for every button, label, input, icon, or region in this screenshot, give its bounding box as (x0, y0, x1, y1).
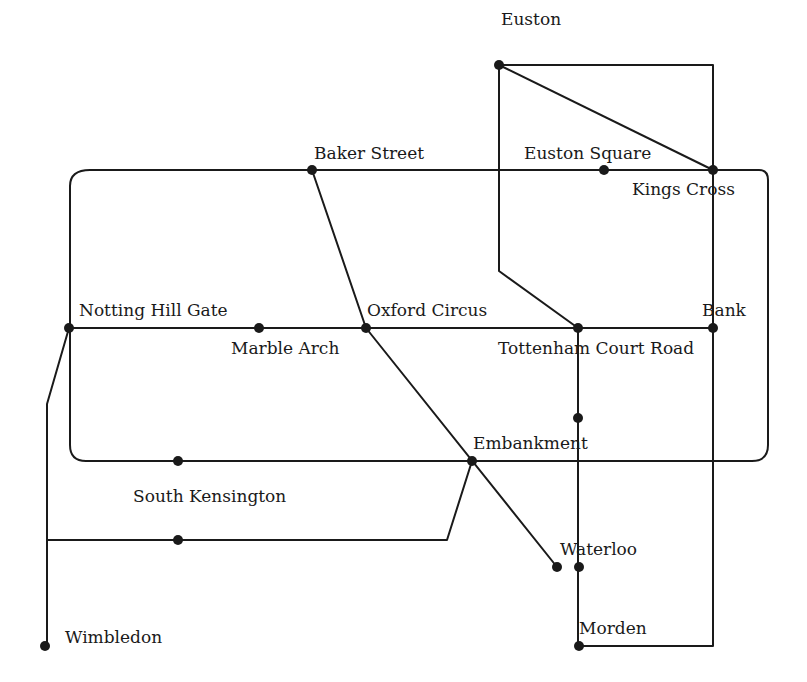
station-label-waterloo: Waterloo (560, 539, 637, 559)
station-dot-marble-arch (254, 323, 264, 333)
station-label-euston-square: Euston Square (524, 143, 651, 163)
station-label-wimbledon: Wimbledon (65, 627, 162, 647)
station-label-south-kensington: South Kensington (133, 486, 286, 506)
station-label-marble-arch: Marble Arch (231, 338, 339, 358)
station-dot-unnamed-2 (173, 456, 183, 466)
station-dot-euston (494, 60, 504, 70)
station-dot-tottenham-court-road (573, 323, 583, 333)
station-dot-south-kensington (173, 535, 183, 545)
station-dot-unnamed-1 (573, 413, 583, 423)
station-label-kings-cross: Kings Cross (632, 179, 735, 199)
station-label-bank: Bank (702, 300, 747, 320)
station-label-notting-hill-gate: Notting Hill Gate (79, 300, 228, 320)
station-label-euston: Euston (501, 9, 561, 29)
station-label-morden: Morden (579, 618, 647, 638)
station-dot-wimbledon (40, 641, 50, 651)
station-dot-notting-hill-gate (64, 323, 74, 333)
station-dot-baker-street (307, 165, 317, 175)
station-dot-morden (574, 641, 584, 651)
station-dot-kings-cross (708, 165, 718, 175)
station-label-oxford-circus: Oxford Circus (367, 300, 487, 320)
bakerloo-line (312, 170, 557, 567)
station-label-embankment: Embankment (473, 433, 588, 453)
station-dot-waterloo-branch (552, 562, 562, 572)
station-dot-embankment (467, 456, 477, 466)
tube-map: EustonEuston SquareKings CrossBaker Stre… (0, 0, 807, 682)
station-dot-euston-square (599, 165, 609, 175)
district-line (47, 328, 69, 646)
station-dot-bank (708, 323, 718, 333)
station-label-tottenham-court-road: Tottenham Court Road (498, 338, 694, 358)
station-dot-oxford-circus (361, 323, 371, 333)
station-dot-waterloo (574, 562, 584, 572)
station-label-baker-street: Baker Street (314, 143, 424, 163)
